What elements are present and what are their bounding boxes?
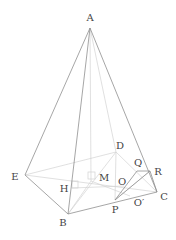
label-A: A: [85, 12, 94, 23]
label-E: E: [11, 171, 18, 182]
label-H: H: [60, 183, 69, 194]
label-Q: Q: [134, 157, 142, 168]
label-D: D: [116, 140, 124, 151]
edge-EB: [25, 175, 68, 214]
segment-DP: [115, 152, 116, 200]
label-O: O: [118, 176, 126, 187]
edge-AE: [25, 28, 90, 175]
segment-BD: [68, 152, 116, 214]
label-B: B: [59, 217, 66, 228]
pyramid-diagram: A E B C D H M O Q R P O′: [0, 0, 176, 240]
edge-AD: [90, 28, 116, 152]
edge-AC: [90, 28, 157, 192]
label-O-prime: O′: [134, 197, 145, 208]
edge-AB: [68, 28, 90, 214]
label-R: R: [154, 166, 162, 177]
label-P: P: [112, 204, 119, 215]
right-angle-mark-M: [88, 172, 95, 179]
altitude-AM: [90, 28, 91, 181]
label-C: C: [160, 191, 168, 202]
label-M: M: [99, 172, 109, 183]
